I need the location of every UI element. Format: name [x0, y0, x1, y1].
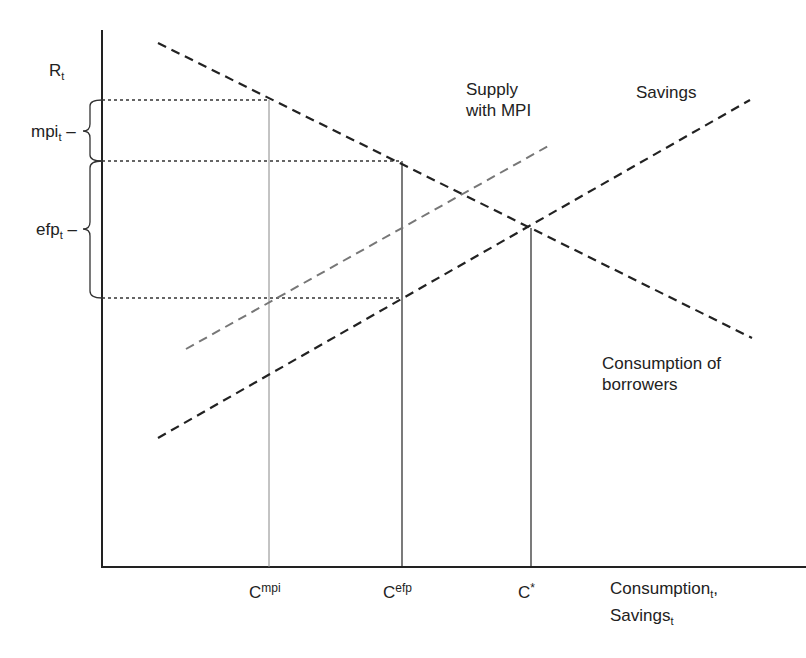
x-tick-c-efp: Cefp — [383, 578, 412, 603]
x-tick-c-star: C* — [518, 578, 535, 603]
x-tick-c-mpi: Cmpi — [249, 578, 281, 603]
efp-brace — [83, 161, 102, 298]
mpi-brace — [83, 100, 102, 161]
consumption-of-borrowers-label: Consumption of borrowers — [602, 353, 721, 395]
mpi-brace-label: mpit – — [31, 121, 76, 148]
y-axis-label: Rt — [49, 60, 64, 87]
x-axis-label: Consumptiont, Savingst — [610, 578, 718, 632]
efp-brace-label: efpt – — [36, 219, 77, 246]
supply-with-mpi-label: Supply with MPI — [466, 79, 531, 121]
savings-label: Savings — [636, 82, 696, 103]
